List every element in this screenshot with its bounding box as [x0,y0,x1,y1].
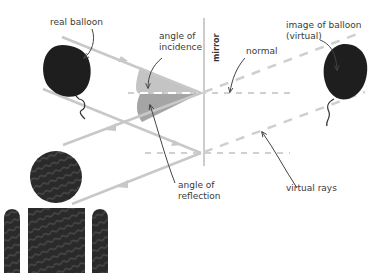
observer-person-icon [4,151,108,273]
label-image-of-balloon-2: (virtual) [286,31,322,42]
label-real-balloon: real balloon [50,17,103,28]
label-normal: normal [246,46,278,57]
label-image-of-balloon-1: image of balloon [286,20,361,31]
label-angle-of-reflection-1: angle of [178,180,215,191]
virtual-balloon-icon [324,44,368,126]
label-mirror: mirror [212,34,221,62]
label-angle-of-incidence-1: angle of [159,31,196,42]
label-angle-of-incidence-2: incidence [159,42,202,53]
label-pointers [84,29,337,188]
real-balloon-icon [43,45,91,119]
label-virtual-rays: virtual rays [286,183,337,194]
reflected-arrows [105,123,128,188]
label-angle-of-reflection-2: reflection [178,191,220,202]
